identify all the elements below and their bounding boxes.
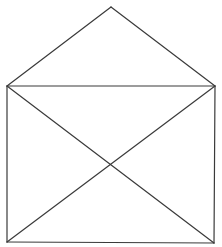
line-roof-left: [7, 7, 111, 86]
house-diagram: [0, 0, 222, 247]
diagram-canvas: [0, 0, 222, 247]
line-right-edge: [214, 86, 215, 243]
line-bottom-edge: [7, 242, 214, 243]
line-roof-right: [111, 7, 215, 86]
